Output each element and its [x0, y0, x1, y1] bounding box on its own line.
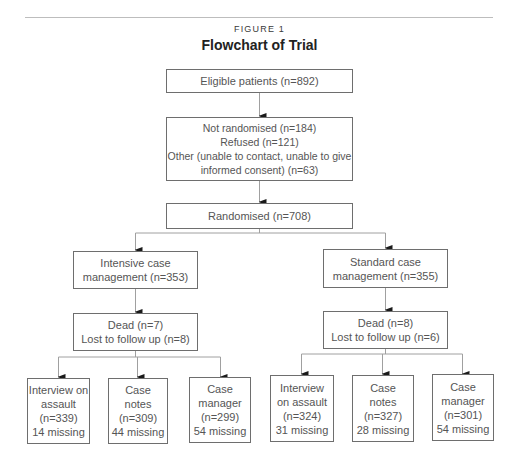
- intensive-lost-text: Lost to follow up (n=8): [81, 332, 190, 346]
- intensive-arm-line-2: management (n=353): [83, 270, 188, 284]
- top-rule: [25, 17, 493, 18]
- intensive-arm-line-1: Intensive case: [100, 256, 170, 270]
- outcome-count: (n=339): [39, 411, 77, 425]
- standard-arm-line-1: Standard case: [350, 255, 421, 269]
- outcome-line: manager: [441, 394, 484, 408]
- intensive-attrition-box: Dead (n=7) Lost to follow up (n=8): [73, 313, 198, 351]
- randomised-text: Randomised (n=708): [208, 209, 311, 223]
- outcome-line: on assault: [277, 395, 327, 409]
- outcome-count: (n=309): [119, 411, 157, 425]
- eligible-patients-box: Eligible patients (n=892): [166, 69, 353, 93]
- figure-title: Flowchart of Trial: [0, 37, 519, 53]
- outcome-count: (n=324): [283, 409, 321, 423]
- eligible-patients-text: Eligible patients (n=892): [200, 74, 318, 88]
- outcome-line: Interview on: [29, 383, 88, 397]
- outcome-missing: 28 missing: [357, 423, 410, 437]
- standard-arm-line-2: management (n=355): [333, 269, 438, 283]
- outcome-missing: 14 missing: [32, 425, 85, 439]
- standard-dead-text: Dead (n=8): [358, 316, 413, 330]
- outcome-missing: 54 missing: [194, 424, 247, 438]
- standard-attrition-box: Dead (n=8) Lost to follow up (n=6): [323, 311, 448, 349]
- other-reason-text-cont: informed consent) (n=63): [201, 163, 319, 177]
- standard-outcome-manager-box: Case manager (n=301) 54 missing: [432, 374, 494, 441]
- outcome-missing: 54 missing: [437, 422, 490, 436]
- intensive-outcome-manager-box: Case manager (n=299) 54 missing: [189, 377, 251, 443]
- outcome-line: Interview: [280, 381, 324, 395]
- standard-outcome-interview-box: Interview on assault (n=324) 31 missing: [270, 375, 334, 442]
- outcome-line: notes: [370, 395, 397, 409]
- intensive-arm-box: Intensive case management (n=353): [73, 251, 198, 289]
- intensive-outcome-interview-box: Interview on assault (n=339) 14 missing: [27, 378, 90, 444]
- outcome-line: manager: [198, 396, 241, 410]
- intensive-outcome-notes-box: Case notes (n=309) 44 missing: [108, 378, 168, 444]
- outcome-count: (n=299): [201, 410, 239, 424]
- outcome-missing: 44 missing: [112, 425, 165, 439]
- outcome-count: (n=301): [444, 408, 482, 422]
- outcome-line: Case: [207, 382, 233, 396]
- outcome-line: notes: [125, 397, 152, 411]
- other-reason-text: Other (unable to contact, unable to give: [168, 149, 352, 163]
- standard-outcome-notes-box: Case notes (n=327) 28 missing: [352, 375, 414, 442]
- standard-arm-box: Standard case management (n=355): [323, 249, 448, 288]
- intensive-dead-text: Dead (n=7): [108, 318, 163, 332]
- outcome-line: Case: [370, 381, 396, 395]
- outcome-line: Case: [125, 383, 151, 397]
- randomised-box: Randomised (n=708): [166, 203, 353, 229]
- outcome-line: Case: [450, 380, 476, 394]
- not-randomised-box: Not randomised (n=184) Refused (n=121) O…: [166, 117, 353, 181]
- figure-label: FIGURE 1: [0, 24, 519, 34]
- standard-lost-text: Lost to follow up (n=6): [331, 330, 440, 344]
- not-randomised-text: Not randomised (n=184): [203, 121, 317, 135]
- outcome-missing: 31 missing: [276, 423, 329, 437]
- outcome-line: assault: [41, 397, 76, 411]
- refused-text: Refused (n=121): [220, 135, 299, 149]
- outcome-count: (n=327): [364, 409, 402, 423]
